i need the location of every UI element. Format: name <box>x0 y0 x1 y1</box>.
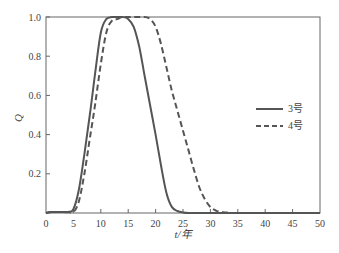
y-axis-label: Q <box>12 114 24 122</box>
x-tick-label: 45 <box>288 218 298 229</box>
legend-label-4: 4号 <box>288 120 303 131</box>
legend-label-3: 3号 <box>288 103 303 114</box>
plot-frame <box>46 17 320 213</box>
y-tick-label: 0.2 <box>29 168 42 179</box>
x-axis-label: t/年 <box>174 228 192 240</box>
y-tick-label: 0.6 <box>29 90 42 101</box>
x-tick-label: 0 <box>44 218 49 229</box>
x-tick-label: 40 <box>260 218 270 229</box>
series-line-4 <box>46 17 320 213</box>
legend: 3号 4号 <box>256 103 303 131</box>
y-tick-label: 0.8 <box>29 51 42 62</box>
x-tick-label: 35 <box>233 218 243 229</box>
x-tick-label: 5 <box>71 218 76 229</box>
y-axis-ticks: 0.20.40.60.81.0 <box>29 12 51 180</box>
x-tick-label: 20 <box>151 218 161 229</box>
x-tick-label: 50 <box>315 218 325 229</box>
series-line-3 <box>46 17 320 213</box>
y-tick-label: 0.4 <box>29 129 42 140</box>
plot-border <box>46 17 320 213</box>
line-chart: 05101520253035404550 0.20.40.60.81.0 t/年… <box>0 0 339 253</box>
x-tick-label: 10 <box>96 218 106 229</box>
x-tick-label: 30 <box>205 218 215 229</box>
x-tick-label: 15 <box>123 218 133 229</box>
series-layer <box>46 17 320 213</box>
y-tick-label: 1.0 <box>29 12 42 23</box>
